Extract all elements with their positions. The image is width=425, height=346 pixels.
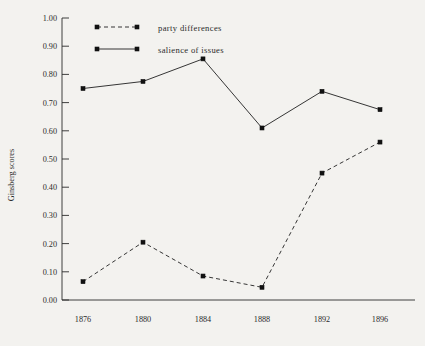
data-point-marker: [320, 171, 324, 175]
y-tick-label: 0.40: [43, 183, 57, 192]
legend-label: salience of issues: [158, 45, 224, 55]
y-tick-label: 0.50: [43, 155, 57, 164]
data-point-marker: [378, 108, 382, 112]
y-tick-label: 0.90: [43, 42, 57, 51]
y-tick-label: 0.60: [43, 127, 57, 136]
legend-label: party differences: [158, 23, 222, 33]
y-tick-label: 0.70: [43, 99, 57, 108]
data-point-marker: [141, 79, 145, 83]
data-point-marker: [260, 126, 264, 130]
y-tick-label: 1.00: [43, 14, 57, 23]
data-point-marker: [201, 57, 205, 61]
data-point-marker: [201, 274, 205, 278]
x-tick-label: 1884: [195, 315, 211, 324]
legend-marker-start: [95, 25, 99, 29]
x-tick-label: 1876: [75, 315, 91, 324]
y-tick-label: 0.30: [43, 211, 57, 220]
legend-marker-start: [95, 47, 99, 51]
x-tick-label: 1896: [372, 315, 388, 324]
data-point-marker: [320, 89, 324, 93]
data-point-marker: [81, 280, 85, 284]
data-point-marker: [260, 285, 264, 289]
data-point-marker: [378, 140, 382, 144]
data-point-marker: [81, 87, 85, 91]
chart-container: 0.000.100.200.300.400.500.600.700.800.90…: [0, 0, 425, 346]
line-chart: 0.000.100.200.300.400.500.600.700.800.90…: [0, 0, 425, 346]
data-point-marker: [141, 240, 145, 244]
y-axis-title: Ginsberg scores: [7, 149, 16, 201]
y-tick-label: 0.80: [43, 70, 57, 79]
x-tick-label: 1892: [314, 315, 330, 324]
x-tick-label: 1888: [254, 315, 270, 324]
y-tick-label: 0.20: [43, 240, 57, 249]
legend-marker-end: [135, 25, 139, 29]
x-tick-label: 1880: [135, 315, 151, 324]
y-tick-label: 0.10: [43, 268, 57, 277]
legend-marker-end: [135, 47, 139, 51]
y-tick-label: 0.00: [43, 296, 57, 305]
